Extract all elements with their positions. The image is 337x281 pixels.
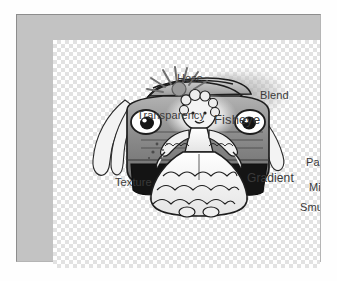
label-hose: Hose	[177, 73, 203, 84]
label-blend: Blend	[260, 90, 289, 101]
label-transparency: Transparency	[137, 110, 205, 121]
transparency-canvas[interactable]: Hose Blend Transparency Fisheye Texture …	[53, 40, 320, 268]
label-pattern: Pattern	[306, 157, 320, 168]
label-fisheye: Fisheye	[214, 113, 260, 126]
canvas-frame: Hose Blend Transparency Fisheye Texture …	[16, 14, 321, 262]
label-texture: Texture	[115, 177, 152, 188]
label-smudge: Smudge	[300, 202, 320, 213]
label-mirror: Mirror	[309, 182, 320, 193]
page-root: Hose Blend Transparency Fisheye Texture …	[0, 0, 337, 281]
label-gradient: Gradient	[247, 172, 294, 184]
